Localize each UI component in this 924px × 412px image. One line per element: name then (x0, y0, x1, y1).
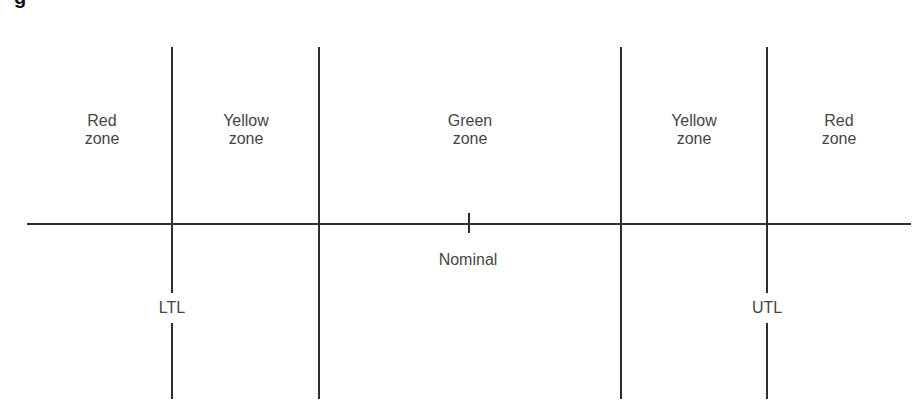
ltl-label: LTL (142, 299, 202, 317)
utl-line-lower (766, 323, 768, 399)
zone-label-yellow-left: Yellow zone (186, 112, 306, 148)
zone-word: zone (410, 130, 530, 148)
zone-name: Green (410, 112, 530, 130)
ltl-line-upper (171, 47, 173, 293)
green-lower-boundary-line (318, 47, 320, 399)
zone-word: zone (634, 130, 754, 148)
caption-fragment: g (14, 0, 26, 8)
zone-label-red-right: Red zone (779, 112, 899, 148)
zone-name: Red (779, 112, 899, 130)
zone-word: zone (42, 130, 162, 148)
zone-label-green: Green zone (410, 112, 530, 148)
zone-word: zone (186, 130, 306, 148)
zone-label-red-left: Red zone (42, 112, 162, 148)
zone-word: zone (779, 130, 899, 148)
zone-name: Yellow (634, 112, 754, 130)
nominal-tick (468, 213, 470, 233)
figure-caption-clipped: g (14, 0, 26, 9)
green-upper-boundary-line (620, 47, 622, 399)
utl-line-upper (766, 47, 768, 293)
utl-label: UTL (737, 299, 797, 317)
zone-name: Yellow (186, 112, 306, 130)
zone-name: Red (42, 112, 162, 130)
zone-label-yellow-right: Yellow zone (634, 112, 754, 148)
nominal-label: Nominal (418, 251, 518, 269)
ltl-line-lower (171, 323, 173, 399)
